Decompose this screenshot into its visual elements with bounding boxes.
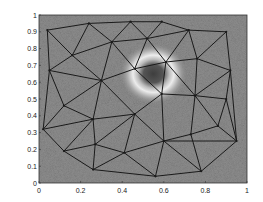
mesh-node: [63, 150, 65, 152]
x-tick-label: 0: [37, 187, 41, 194]
y-tick-label: 0.2: [27, 146, 37, 153]
mesh-node: [188, 29, 190, 31]
x-tick-label: 0.8: [201, 187, 211, 194]
y-tick-label: 0.3: [27, 129, 37, 136]
mesh-node: [161, 21, 163, 23]
y-tick-label: 0.8: [27, 45, 37, 52]
mesh-node: [225, 98, 227, 100]
y-tick-label: 0.4: [27, 112, 37, 119]
y-tick-label: 0: [33, 180, 37, 187]
mesh-node: [163, 140, 165, 142]
mesh-node: [71, 54, 73, 56]
y-tick-label: 0.1: [27, 163, 37, 170]
mesh-node: [134, 113, 136, 115]
x-tick-label: 0.2: [76, 187, 86, 194]
mesh-node: [236, 140, 238, 142]
mesh-node: [196, 58, 198, 60]
x-tick-label: 0.4: [117, 187, 127, 194]
mesh-node: [225, 31, 227, 33]
mesh-node: [229, 69, 231, 71]
mesh-node: [100, 79, 102, 81]
mesh-node: [217, 125, 219, 127]
mesh-node: [92, 168, 94, 170]
mesh-node: [94, 143, 96, 145]
mesh-node: [154, 175, 156, 177]
mesh-node: [123, 152, 125, 154]
mesh-node: [146, 37, 148, 39]
mesh-figure: 00.20.40.60.81 00.10.20.30.40.50.60.70.8…: [0, 0, 263, 202]
x-tick-label: 1: [245, 187, 249, 194]
y-tick-label: 0.9: [27, 28, 37, 35]
mesh-node: [42, 128, 44, 130]
mesh-node: [165, 61, 167, 63]
mesh-node: [111, 41, 113, 43]
y-tick-label: 0.7: [27, 62, 37, 69]
mesh-node: [134, 68, 136, 70]
mesh-node: [46, 29, 48, 31]
mesh-node: [48, 69, 50, 71]
x-tick-label: 0.6: [159, 187, 169, 194]
y-tick-label: 0.6: [27, 79, 37, 86]
mesh-node: [161, 93, 163, 95]
y-tick-label: 1: [33, 12, 37, 19]
mesh-node: [63, 105, 65, 107]
mesh-node: [88, 22, 90, 24]
plot-area: [39, 15, 247, 183]
mesh-node: [200, 170, 202, 172]
mesh-node: [194, 95, 196, 97]
mesh-node: [190, 133, 192, 135]
mesh-node: [92, 118, 94, 120]
mesh-node: [129, 21, 131, 23]
y-tick-label: 0.5: [27, 96, 37, 103]
